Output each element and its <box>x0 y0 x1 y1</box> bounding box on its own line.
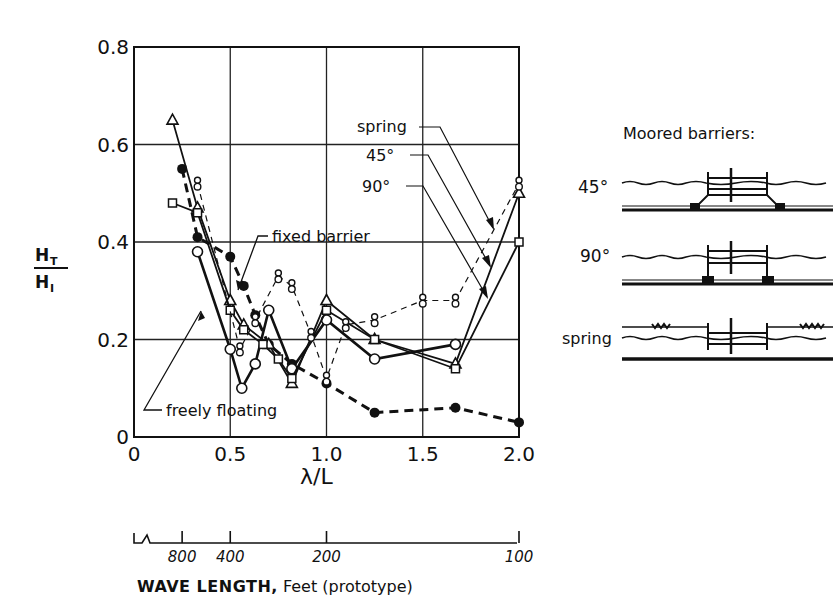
svg-text:T: T <box>50 255 58 268</box>
annotation-45-degree: 45° <box>366 146 394 165</box>
x-tick-label: 1.0 <box>311 442 343 466</box>
x-tick-label: 0 <box>128 442 141 466</box>
annotation-freely-floating: freely floating <box>166 401 277 420</box>
wavelength-axis-title: WAVE LENGTH, Feet (prototype) <box>137 577 413 596</box>
y-axis-label: H T H I <box>34 245 68 295</box>
x-axis-label: λ/L <box>300 464 333 489</box>
wavelength-tick-label: 100 <box>505 548 534 566</box>
moored-barriers-title: Moored barriers: <box>623 124 755 143</box>
series-layer <box>167 114 525 427</box>
annotation-spring: spring <box>357 117 407 136</box>
diagram-label-90: 90° <box>580 246 610 266</box>
y-tick-label: 0.6 <box>97 133 129 157</box>
diagram-label-45: 45° <box>578 177 608 197</box>
annotations: fixed barrier freely floating spring 45°… <box>144 117 494 420</box>
moored-barriers-diagram: 45° 90° spring <box>562 168 833 359</box>
y-tick-label: 0 <box>116 425 129 449</box>
wavelength-axis: 800400200100 <box>134 531 533 566</box>
annotation-fixed-barrier: fixed barrier <box>272 227 370 246</box>
y-tick-label: 0.4 <box>97 230 129 254</box>
diagram-label-spring: spring <box>562 329 612 348</box>
x-tick-label: 0.5 <box>214 442 246 466</box>
x-tick-label: 2.0 <box>503 442 535 466</box>
y-tick-label: 0.2 <box>97 328 129 352</box>
svg-text:I: I <box>50 282 54 295</box>
svg-text:H: H <box>35 245 49 265</box>
wavelength-tick-label: 200 <box>312 548 341 566</box>
annotation-90-degree: 90° <box>362 177 390 196</box>
svg-text:H: H <box>35 272 49 292</box>
y-tick-label: 0.8 <box>97 35 129 59</box>
x-tick-label: 1.5 <box>407 442 439 466</box>
wavelength-tick-label: 800 <box>168 548 197 566</box>
axes: 00.51.01.52.000.20.40.60.8 <box>97 35 535 466</box>
chart: 00.51.01.52.000.20.40.60.8 fixed barrier… <box>0 0 833 609</box>
wavelength-tick-label: 400 <box>216 548 245 566</box>
